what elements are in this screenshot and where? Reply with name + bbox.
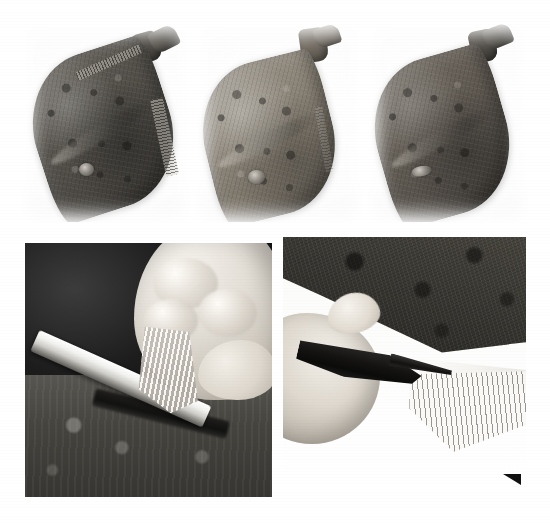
photo-panel-bottom-2 bbox=[283, 237, 526, 490]
photo-panel-top-1 bbox=[22, 24, 190, 222]
flatfish-photo-pale-side bbox=[196, 24, 362, 222]
photo-panel-top-3 bbox=[368, 24, 528, 222]
figure-plate bbox=[0, 0, 550, 523]
photo-panel-bottom-1 bbox=[25, 243, 272, 497]
flatfish-photo-trimmed bbox=[368, 24, 528, 222]
knuckle bbox=[198, 289, 257, 337]
photo-panel-top-2 bbox=[196, 24, 362, 222]
scissors-cutting-fin-photo bbox=[283, 237, 526, 490]
fish-eye-bump bbox=[79, 163, 94, 176]
fish-eye-bump bbox=[248, 170, 265, 184]
knife-under-fin-photo bbox=[25, 243, 272, 497]
crop-corner-triangle bbox=[503, 474, 521, 485]
flatfish-photo-untrimmed bbox=[22, 24, 190, 222]
